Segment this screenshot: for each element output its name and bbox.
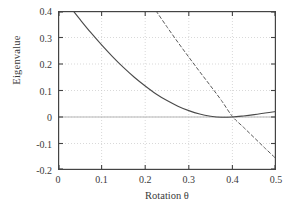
- y-axis-tick-labels: 0.40.30.20.10-0.1-0.2: [0, 11, 54, 170]
- plot-area: [58, 11, 276, 170]
- y-tick-label: 0.1: [0, 85, 52, 96]
- y-tick-label: 0.3: [0, 32, 52, 43]
- x-tick-label: 0.2: [125, 174, 165, 185]
- gridlines: [59, 12, 275, 169]
- chart-figure: Eigenvalue 0.40.30.20.10-0.1-0.2 00.10.2…: [0, 0, 294, 211]
- y-tick-label: 0: [0, 112, 52, 123]
- y-tick-label: -0.1: [0, 138, 52, 149]
- plot-svg: [58, 11, 276, 170]
- x-tick-label: 0.5: [256, 174, 294, 185]
- x-axis-label: Rotation θ: [58, 190, 276, 204]
- x-tick-label: 0: [38, 174, 78, 185]
- x-tick-label: 0.1: [82, 174, 122, 185]
- y-tick-label: 0.4: [0, 6, 52, 17]
- x-tick-label: 0.4: [212, 174, 252, 185]
- y-tick-label: 0.2: [0, 59, 52, 70]
- data-curves: [73, 11, 276, 159]
- x-axis-tick-labels: 00.10.20.30.40.5: [58, 174, 276, 188]
- x-tick-label: 0.3: [169, 174, 209, 185]
